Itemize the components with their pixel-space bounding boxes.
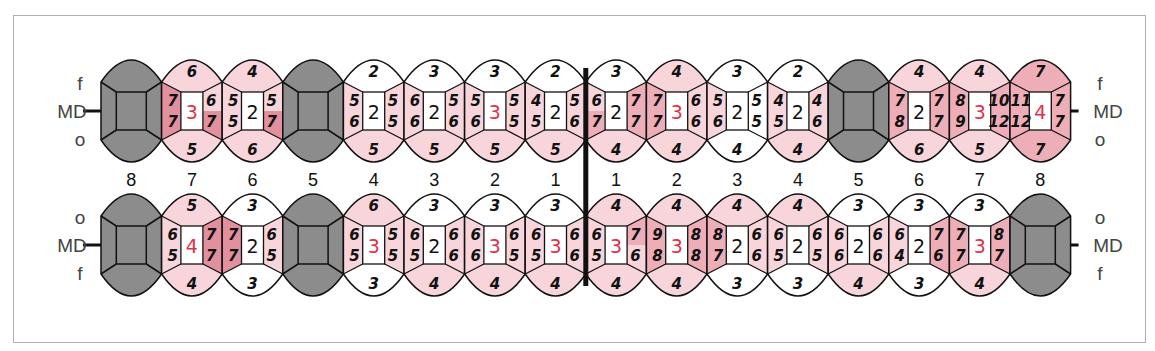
- value-bottom: 4: [670, 275, 681, 293]
- value-bottom: 5: [550, 141, 560, 159]
- value-right-bottom: 7: [267, 113, 278, 131]
- value-center: 4: [1034, 101, 1046, 123]
- value-right-bottom: 6: [570, 247, 580, 265]
- value-left-bottom: 6: [349, 113, 359, 131]
- value-center: 3: [610, 235, 622, 257]
- value-right-bottom: 6: [933, 247, 943, 265]
- value-left-bottom: 7: [228, 247, 239, 265]
- value-right-bottom: 12: [989, 113, 1010, 131]
- value-left-bottom: 5: [410, 247, 420, 265]
- value-center: 2: [610, 101, 622, 123]
- value-center: 2: [428, 101, 440, 123]
- value-center: 2: [731, 101, 743, 123]
- value-left-top: 7: [895, 92, 906, 110]
- tooth-upper-right-8[interactable]: [101, 60, 162, 162]
- upper-row-label-right: o: [1095, 129, 1106, 150]
- value-left-bottom: 7: [652, 113, 663, 131]
- lower-row: 5465774337765263655533465662346665334656…: [83, 164, 1079, 326]
- value-center: 3: [549, 235, 561, 257]
- tooth-upper-right-4[interactable]: 2556552: [343, 30, 404, 192]
- value-top: 3: [429, 63, 439, 81]
- value-left-top: 6: [834, 226, 844, 244]
- value-bottom: 4: [610, 275, 621, 293]
- upper-row-label-right: MD: [1093, 101, 1123, 122]
- tooth-upper-left-3[interactable]: 3456552: [707, 30, 768, 192]
- value-top: 7: [1035, 63, 1046, 81]
- value-left-bottom: 8: [895, 113, 905, 131]
- value-center: 3: [671, 101, 683, 123]
- periodontal-chart: 6577673465557225565523566562355655325455…: [0, 0, 1155, 351]
- value-bottom: 4: [670, 141, 681, 159]
- tooth-number-label: 8: [1035, 170, 1045, 190]
- value-left-top: 6: [470, 226, 480, 244]
- value-right-top: 4: [811, 92, 822, 110]
- value-center: 2: [368, 101, 380, 123]
- tooth-upper-right-6[interactable]: 4655572: [222, 30, 283, 192]
- value-center: 2: [428, 235, 440, 257]
- value-right-top: 7: [933, 92, 944, 110]
- value-right-top: 7: [630, 92, 641, 110]
- tooth-number-label: 5: [308, 170, 318, 190]
- value-center: 3: [489, 235, 501, 257]
- value-left-top: 6: [895, 226, 905, 244]
- value-bottom: 4: [549, 275, 560, 293]
- tooth-upper-left-1[interactable]: 3467772: [586, 30, 647, 192]
- value-right-top: 6: [751, 226, 761, 244]
- value-bottom: 4: [731, 141, 742, 159]
- tooth-upper-right-7[interactable]: 6577673: [162, 30, 223, 192]
- value-bottom: 4: [792, 141, 803, 159]
- upper-row: 6577673465557225565523566562355655325455…: [83, 30, 1079, 192]
- value-left-top: 6: [531, 226, 541, 244]
- tooth-upper-right-2[interactable]: 3556553: [465, 30, 526, 192]
- value-bottom: 4: [610, 141, 621, 159]
- tooth-upper-right-5[interactable]: [283, 60, 344, 162]
- value-right-bottom: 5: [388, 247, 398, 265]
- tooth-number-label: 8: [126, 170, 136, 190]
- value-top: 4: [610, 197, 621, 215]
- tooth-upper-left-6[interactable]: 4678772: [889, 30, 950, 192]
- value-right-top: 7: [933, 226, 944, 244]
- value-bottom: 5: [368, 141, 378, 159]
- value-right-bottom: 6: [448, 247, 458, 265]
- tooth-upper-left-5[interactable]: [828, 60, 889, 162]
- tooth-upper-left-8[interactable]: 771112774: [1010, 30, 1071, 192]
- value-right-bottom: 6: [751, 247, 761, 265]
- value-bottom: 6: [247, 141, 257, 159]
- value-center: 3: [974, 101, 986, 123]
- value-top: 4: [246, 63, 257, 81]
- value-left-bottom: 5: [228, 113, 238, 131]
- value-left-bottom: 7: [167, 113, 178, 131]
- value-left-top: 5: [470, 92, 480, 110]
- value-left-top: 11: [1011, 92, 1032, 110]
- tooth-lower-right-5[interactable]: [283, 194, 344, 296]
- value-right-top: 7: [630, 226, 641, 244]
- value-right-bottom: 5: [388, 113, 398, 131]
- value-right-top: 5: [388, 226, 398, 244]
- value-right-top: 5: [448, 92, 458, 110]
- value-top: 3: [429, 197, 439, 215]
- value-center: 2: [913, 101, 925, 123]
- value-center: 2: [549, 101, 561, 123]
- tooth-upper-left-2[interactable]: 4477663: [646, 30, 707, 192]
- value-bottom: 5: [974, 141, 984, 159]
- tooth-upper-right-3[interactable]: 3566562: [404, 30, 465, 192]
- value-top: 2: [793, 63, 803, 81]
- value-center: 2: [913, 235, 925, 257]
- value-center: 2: [792, 101, 804, 123]
- value-right-bottom: 6: [630, 247, 640, 265]
- value-top: 4: [731, 197, 742, 215]
- tooth-lower-left-8[interactable]: [1010, 194, 1071, 296]
- tooth-upper-left-7[interactable]: 458910123: [949, 30, 1010, 192]
- tooth-upper-left-4[interactable]: 2445462: [768, 30, 829, 192]
- value-center: 3: [489, 101, 501, 123]
- tooth-number-label: 1: [550, 170, 560, 190]
- value-right-top: 5: [570, 92, 580, 110]
- value-right-bottom: 7: [206, 113, 217, 131]
- tooth-upper-right-1[interactable]: 2545562: [525, 30, 586, 192]
- value-left-bottom: 5: [349, 247, 359, 265]
- tooth-number-label: 6: [247, 170, 257, 190]
- tooth-lower-right-8[interactable]: [101, 194, 162, 296]
- value-left-bottom: 6: [470, 247, 480, 265]
- value-right-top: 5: [751, 92, 761, 110]
- value-bottom: 5: [187, 141, 197, 159]
